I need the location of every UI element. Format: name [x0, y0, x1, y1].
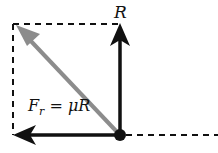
normal-force-label: R: [114, 2, 127, 22]
friction-force-label: Fr = μR: [28, 96, 90, 118]
normal-force-arrow: [110, 23, 130, 135]
friction-force-arrow: [13, 125, 120, 145]
friction-equation: = μR: [44, 96, 90, 115]
origin-point: [114, 129, 126, 141]
friction-symbol: F: [28, 96, 39, 115]
force-diagram: [0, 0, 218, 153]
